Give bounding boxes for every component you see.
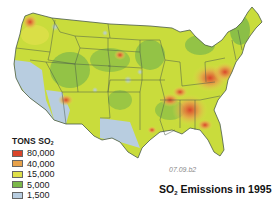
legend-swatch	[12, 192, 23, 199]
legend-item-40000: 40,000	[12, 159, 55, 170]
figure-code: 07.09.b2	[169, 166, 196, 173]
legend-swatch	[12, 171, 23, 178]
legend-swatch	[12, 181, 23, 188]
legend-swatch	[12, 160, 23, 167]
legend-item-80000: 80,000	[12, 148, 55, 159]
legend: TONS SO2 80,000 40,000 15,000 5,000 1,50…	[12, 136, 55, 201]
legend-item-1500: 1,500	[12, 190, 55, 201]
map-title: SO2 Emissions in 1995	[159, 183, 271, 196]
legend-item-5000: 5,000	[12, 180, 55, 191]
legend-title: TONS SO2	[12, 136, 55, 146]
legend-swatch	[12, 150, 23, 157]
legend-item-15000: 15,000	[12, 169, 55, 180]
